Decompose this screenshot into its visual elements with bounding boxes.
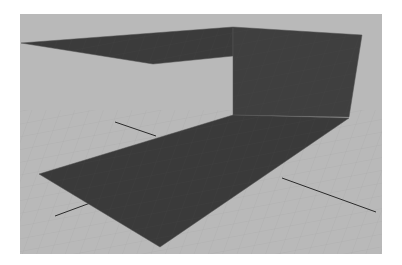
scene-canvas[interactable]: [0, 0, 402, 265]
wall-plane-grid: [233, 27, 362, 117]
screenshot-stage: [0, 0, 402, 265]
top-plane-grid: [21, 27, 233, 64]
